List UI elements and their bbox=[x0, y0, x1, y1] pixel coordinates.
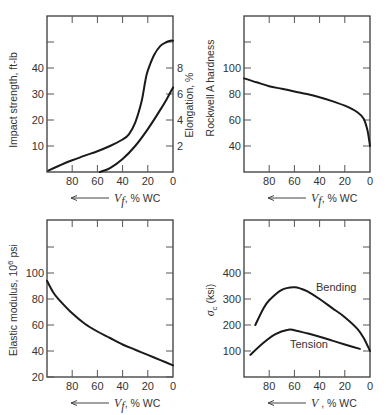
y-tick-label: 20 bbox=[32, 114, 44, 126]
y-tick-label: 40 bbox=[32, 62, 44, 74]
x-tick-label: 0 bbox=[367, 380, 373, 392]
x-tick-label: 20 bbox=[339, 380, 351, 392]
x-tick-label: 80 bbox=[66, 175, 78, 187]
x-tick-label: 40 bbox=[313, 380, 325, 392]
x-tick-label: 80 bbox=[263, 175, 275, 187]
y-tick-label: 400 bbox=[223, 267, 241, 279]
y-tick-label: 60 bbox=[229, 114, 241, 126]
x-axis-label: Vf, % WC bbox=[114, 191, 161, 208]
panel-impact-elongation: 806040200102030402468Vf, % WCImpact stre… bbox=[7, 16, 195, 208]
plot-frame bbox=[47, 16, 173, 172]
x-axis-label: Vf, % WC bbox=[114, 396, 161, 413]
x-tick-label: 80 bbox=[66, 380, 78, 392]
x-tick-label: 40 bbox=[116, 175, 128, 187]
x-tick-label: 20 bbox=[142, 380, 154, 392]
curve-hardness bbox=[244, 78, 370, 146]
y-tick-label: 100 bbox=[223, 62, 241, 74]
panel-strength: 806040200100200300400V , % WCσc (ksi)Ben… bbox=[203, 220, 373, 410]
x-tick-label: 0 bbox=[367, 175, 373, 187]
y-right-tick-label: 2 bbox=[177, 140, 183, 152]
y-right-axis-label: Elongation, % bbox=[183, 73, 195, 138]
x-tick-label: 0 bbox=[170, 175, 176, 187]
y-axis-label: Rockwell A hardness bbox=[204, 40, 216, 137]
y-tick-label: 40 bbox=[32, 345, 44, 357]
y-tick-label: 10 bbox=[32, 140, 44, 152]
panel-rockwell-hardness: 806040200406080100Vf, % WCRockwell A har… bbox=[204, 16, 373, 208]
x-tick-label: 60 bbox=[91, 175, 103, 187]
annotation-bending: Bending bbox=[316, 281, 356, 293]
curve-elastic-modulus bbox=[47, 281, 173, 366]
y-tick-label: 100 bbox=[223, 345, 241, 357]
y-tick-label: 60 bbox=[32, 319, 44, 331]
x-axis-label: V , % WC bbox=[311, 396, 357, 410]
y-axis-label: σc (ksi) bbox=[203, 284, 219, 317]
x-tick-label: 0 bbox=[170, 380, 176, 392]
panel-elastic-modulus: 80604020020406080100Vf, % WCElastic modu… bbox=[6, 220, 176, 413]
x-tick-label: 40 bbox=[116, 380, 128, 392]
plot-frame bbox=[47, 220, 173, 377]
x-tick-label: 60 bbox=[91, 380, 103, 392]
y-axis-label: Impact strength, ft-lb bbox=[7, 52, 19, 148]
x-tick-label: 60 bbox=[288, 175, 300, 187]
chart-grid: 806040200102030402468Vf, % WCImpact stre… bbox=[0, 0, 386, 415]
y-tick-label: 40 bbox=[229, 140, 241, 152]
y-tick-label: 100 bbox=[26, 267, 44, 279]
y-tick-label: 300 bbox=[223, 293, 241, 305]
x-tick-label: 20 bbox=[339, 175, 351, 187]
x-tick-label: 20 bbox=[142, 175, 154, 187]
y-tick-label: 80 bbox=[229, 88, 241, 100]
plot-frame bbox=[244, 220, 370, 377]
y-tick-label: 20 bbox=[32, 371, 44, 383]
curve-impact-strength bbox=[48, 41, 173, 171]
annotation-tension: Tension bbox=[290, 338, 328, 350]
y-tick-label: 30 bbox=[32, 88, 44, 100]
x-tick-label: 80 bbox=[263, 380, 275, 392]
y-tick-label: 80 bbox=[32, 293, 44, 305]
x-tick-label: 60 bbox=[288, 380, 300, 392]
x-tick-label: 40 bbox=[313, 175, 325, 187]
x-axis-label: Vf, % WC bbox=[311, 191, 358, 208]
y-right-tick-label: 8 bbox=[177, 62, 183, 74]
curve-elongation bbox=[100, 88, 173, 173]
y-tick-label: 200 bbox=[223, 319, 241, 331]
y-axis-label: Elastic modulus, 106 psi bbox=[6, 244, 19, 356]
